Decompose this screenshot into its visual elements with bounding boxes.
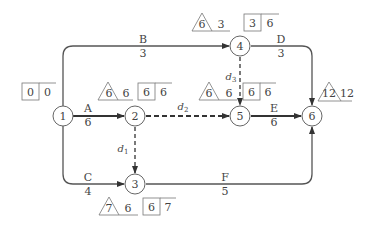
svg-text:3: 3 [218, 18, 225, 31]
node-6-triangle: 12 12 [318, 82, 354, 101]
activity-C-name: C [84, 171, 92, 184]
node-label: 3 [132, 178, 139, 191]
node-label: 4 [237, 40, 244, 53]
dummy-d3-label: d3 [226, 71, 237, 84]
node-2: 2 [125, 106, 145, 126]
node-4-triangle: 6 3 [192, 13, 230, 31]
svg-text:3: 3 [249, 17, 256, 30]
arrow-F [146, 127, 312, 184]
svg-text:7: 7 [165, 201, 172, 214]
node-label: 6 [309, 110, 316, 123]
node-3-triangle: 7 6 [99, 197, 138, 215]
activity-D-duration: 3 [278, 47, 285, 60]
svg-text:7: 7 [106, 202, 113, 215]
svg-text:0: 0 [27, 86, 34, 99]
activity-A-name: A [83, 102, 93, 115]
svg-text:6: 6 [148, 201, 155, 214]
node-4: 4 [230, 36, 250, 56]
svg-text:6: 6 [265, 86, 272, 99]
node-2-triangle: 6 6 [98, 82, 133, 100]
svg-text:12: 12 [340, 87, 354, 100]
activity-A-duration: 6 [85, 116, 92, 129]
svg-text:6: 6 [226, 87, 233, 100]
svg-text:6: 6 [199, 18, 206, 31]
svg-text:6: 6 [143, 86, 150, 99]
network-diagram: 1 2 3 4 5 6 B 3 A 6 C 4 D 3 E 6 F 5 d1 d… [0, 0, 368, 227]
node-5: 5 [230, 106, 250, 126]
activity-F-name: F [221, 171, 229, 184]
svg-text:0: 0 [44, 86, 51, 99]
activity-E-duration: 6 [271, 116, 278, 129]
activity-D-name: D [277, 33, 286, 46]
node-4-time-box: 3 6 [244, 14, 279, 31]
node-label: 5 [237, 110, 244, 123]
node-1: 1 [53, 106, 73, 126]
svg-text:6: 6 [248, 86, 255, 99]
node-label: 2 [132, 110, 139, 123]
node-5-time-box: 6 6 [243, 83, 276, 100]
activity-B-name: B [139, 33, 147, 46]
activity-F-duration: 5 [222, 185, 229, 198]
node-label: 1 [60, 110, 67, 123]
arrow-C [63, 126, 124, 184]
activity-C-duration: 4 [85, 185, 92, 198]
svg-text:6: 6 [267, 17, 274, 30]
node-3-time-box: 6 7 [143, 198, 176, 215]
node-5-triangle: 6 6 [199, 82, 237, 100]
dummy-d2-label: d2 [178, 101, 189, 114]
svg-text:6: 6 [160, 86, 167, 99]
node-1-time-box: 0 0 [22, 83, 56, 100]
node-6: 6 [302, 106, 322, 126]
svg-text:6: 6 [123, 87, 130, 100]
svg-text:12: 12 [322, 87, 336, 100]
activity-B-duration: 3 [140, 47, 147, 60]
svg-text:6: 6 [106, 87, 113, 100]
node-2-time-box: 6 6 [138, 83, 172, 100]
dummy-d1-label: d1 [118, 143, 129, 156]
activity-E-name: E [270, 102, 278, 115]
svg-text:6: 6 [125, 202, 132, 215]
svg-text:6: 6 [206, 87, 213, 100]
node-3: 3 [125, 174, 145, 194]
